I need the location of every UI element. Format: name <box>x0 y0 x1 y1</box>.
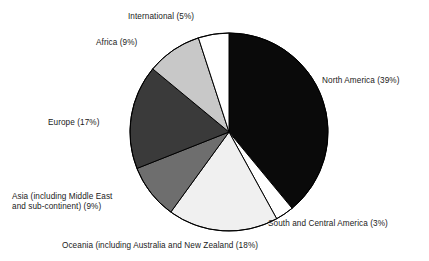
pie-label-north-america: North America (39%) <box>322 76 400 86</box>
pie-label-south-and-central-america: South and Central America (3%) <box>268 219 388 229</box>
pie-label-europe: Europe (17%) <box>48 118 99 128</box>
pie-label-asia: Asia (including Middle Eastand sub-conti… <box>12 192 162 213</box>
pie-label-oceania: Oceania (including Australia and New Zea… <box>62 241 258 251</box>
pie-label-africa: Africa (9%) <box>96 38 137 48</box>
pie-label-asia-line1: Asia (including Middle East <box>12 192 112 201</box>
pie-chart-figure: North America (39%) South and Central Am… <box>0 0 429 261</box>
pie-label-international: International (5%) <box>128 12 194 22</box>
pie-label-asia-line2: and sub-continent) (9%) <box>12 202 101 211</box>
